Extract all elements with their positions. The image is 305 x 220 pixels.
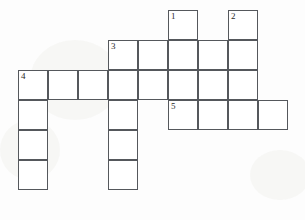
clue-number-4: 4 — [21, 71, 26, 81]
cell-r2c6[interactable] — [198, 40, 228, 70]
cell-r6c3[interactable] — [108, 160, 138, 190]
cell-r2c5[interactable] — [168, 40, 198, 70]
cell-r3c4[interactable] — [138, 70, 168, 100]
cell-r4c3[interactable] — [108, 100, 138, 130]
cell-r4c5[interactable]: 5 — [168, 100, 198, 130]
cell-r2c7[interactable] — [228, 40, 258, 70]
clue-number-5: 5 — [171, 101, 176, 111]
cell-r3c5[interactable] — [168, 70, 198, 100]
crossword-grid: 12345 — [0, 0, 305, 220]
clue-number-2: 2 — [231, 11, 236, 21]
cell-r3c2[interactable] — [78, 70, 108, 100]
cell-r5c0[interactable] — [18, 130, 48, 160]
cell-r4c0[interactable] — [18, 100, 48, 130]
paper-smudge — [250, 150, 305, 200]
cell-r2c3[interactable]: 3 — [108, 40, 138, 70]
cell-r2c4[interactable] — [138, 40, 168, 70]
cell-r1c5[interactable]: 1 — [168, 10, 198, 40]
cell-r6c0[interactable] — [18, 160, 48, 190]
clue-number-3: 3 — [111, 41, 116, 51]
cell-r4c6[interactable] — [198, 100, 228, 130]
cell-r3c0[interactable]: 4 — [18, 70, 48, 100]
cell-r3c7[interactable] — [228, 70, 258, 100]
cell-r1c7[interactable]: 2 — [228, 10, 258, 40]
cell-r3c6[interactable] — [198, 70, 228, 100]
cell-r3c1[interactable] — [48, 70, 78, 100]
clue-number-1: 1 — [171, 11, 176, 21]
cell-r5c3[interactable] — [108, 130, 138, 160]
cell-r4c8[interactable] — [258, 100, 288, 130]
cell-r4c7[interactable] — [228, 100, 258, 130]
cell-r3c3[interactable] — [108, 70, 138, 100]
